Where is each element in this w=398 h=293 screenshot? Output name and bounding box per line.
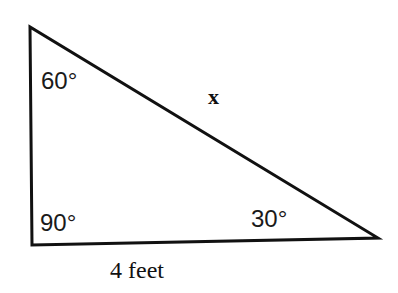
hypotenuse-label: x [208, 84, 219, 109]
right-triangle [30, 27, 378, 245]
angle-top-label: 60° [41, 67, 77, 94]
angle-bottom-right-label: 30° [251, 205, 287, 232]
triangle-diagram: 60° 90° 30° x 4 feet [0, 0, 398, 293]
base-label: 4 feet [110, 257, 164, 283]
angle-bottom-left-label: 90° [40, 209, 76, 236]
